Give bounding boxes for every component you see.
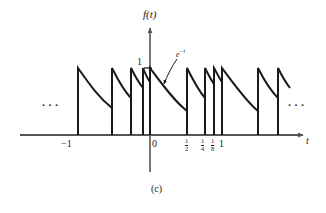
x-tick-label-one-quarter: 1 4 bbox=[201, 138, 204, 152]
x-tick-label-one-half: 1 2 bbox=[185, 138, 188, 152]
fraction-denominator: 4 bbox=[201, 145, 204, 153]
x-axis-label: t bbox=[306, 136, 309, 146]
y-axis-label: f(t) bbox=[143, 9, 156, 20]
fraction-denominator: 2 bbox=[185, 145, 188, 153]
ellipsis-left: ··· bbox=[41, 97, 61, 114]
fraction-numerator: 1 bbox=[185, 138, 188, 145]
pulse-train bbox=[78, 68, 290, 135]
pulse-6 bbox=[187, 68, 205, 135]
figure-container: f(t) t 1 −1 0 1 2 1 4 1 8 1 e−t ··· ··· … bbox=[0, 0, 326, 213]
pulse-10 bbox=[258, 68, 278, 135]
pulse-5 bbox=[150, 68, 187, 135]
fraction-numerator: 1 bbox=[211, 138, 214, 145]
pulse-4 bbox=[143, 68, 150, 135]
pulse-9 bbox=[222, 68, 258, 135]
fraction-numerator: 1 bbox=[201, 138, 204, 145]
pulse-7 bbox=[205, 68, 214, 135]
x-tick-label-0: 0 bbox=[152, 139, 157, 149]
curve-leader-line bbox=[164, 59, 177, 84]
curve-label-exponent: −t bbox=[180, 48, 185, 54]
fraction-denominator: 8 bbox=[211, 145, 214, 153]
pulse-3 bbox=[131, 68, 143, 135]
pulse-8 bbox=[214, 68, 222, 135]
pulse-2 bbox=[112, 68, 131, 135]
x-tick-label-neg-1: −1 bbox=[61, 139, 72, 149]
figure-caption: (c) bbox=[151, 184, 162, 194]
y-tick-label-1: 1 bbox=[137, 57, 142, 67]
pulse-1 bbox=[78, 68, 112, 135]
x-tick-label-1: 1 bbox=[219, 139, 224, 149]
ellipsis-right: ··· bbox=[287, 97, 307, 114]
x-tick-label-one-eighth: 1 8 bbox=[211, 138, 214, 152]
exponential-curve-label: e−t bbox=[176, 49, 185, 59]
